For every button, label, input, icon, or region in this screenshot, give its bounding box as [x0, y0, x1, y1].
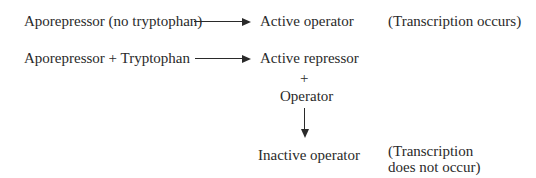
right-arrow-icon [194, 21, 249, 22]
right-arrow-icon [195, 58, 249, 59]
aporepressor-plus-tryptophan-label: Aporepressor + Tryptophan [24, 50, 190, 66]
transcription-not-occur-note-line2: does not occur) [388, 159, 480, 175]
active-operator-label: Active operator [260, 13, 354, 29]
operator-label: Operator [280, 88, 333, 104]
inactive-operator-label: Inactive operator [258, 147, 360, 163]
active-repressor-label: Active repressor [260, 50, 359, 66]
trp-operon-diagram: Aporepressor (no tryptophan) Active oper… [0, 0, 536, 178]
down-arrow-icon [304, 108, 305, 136]
plus-sign: + [300, 70, 308, 86]
aporepressor-no-tryptophan-label: Aporepressor (no tryptophan) [24, 13, 202, 29]
transcription-occurs-note: (Transcription occurs) [388, 13, 521, 29]
transcription-not-occur-note-line1: (Transcription [388, 143, 473, 159]
